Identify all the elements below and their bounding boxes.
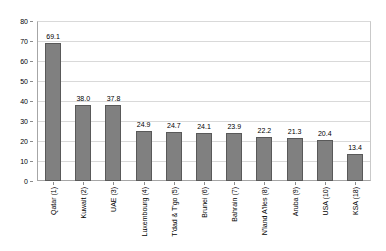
- bar-value-label: 22.2: [258, 127, 272, 134]
- bar-value-label: 20.4: [318, 130, 332, 137]
- x-tick-mark: [295, 182, 296, 185]
- x-tick-mark: [264, 182, 265, 185]
- bar-value-label: 24.7: [167, 122, 181, 129]
- y-tick-label: 60: [20, 58, 28, 65]
- x-axis-slot: UAE (3): [98, 182, 128, 251]
- bar-slot[interactable]: 24.9: [129, 21, 159, 181]
- bar-slot[interactable]: 20.4: [310, 21, 340, 181]
- x-tick-label: Bahrain (7): [231, 187, 238, 222]
- y-tick-label: 70: [20, 38, 28, 45]
- x-tick-mark: [325, 182, 326, 185]
- bar[interactable]: [105, 105, 121, 181]
- x-axis-slot: KSA (18): [340, 182, 370, 251]
- bar-value-label: 24.9: [137, 121, 151, 128]
- x-tick-label: N'land A'lles (8): [261, 187, 268, 235]
- x-tick-label: USA (10): [321, 187, 328, 215]
- x-tick-mark: [234, 182, 235, 185]
- x-tick-label: T'dad & T'go (5): [170, 187, 177, 237]
- bar-slot[interactable]: 24.1: [189, 21, 219, 181]
- y-tick-mark: [30, 21, 33, 22]
- bar[interactable]: [226, 133, 242, 181]
- bars-layer: 69.138.037.824.924.724.123.922.221.320.4…: [38, 21, 370, 181]
- x-tick-mark: [355, 182, 356, 185]
- x-tick-label: KSA (18): [351, 187, 358, 215]
- y-tick-mark: [30, 141, 33, 142]
- y-tick-label: 20: [20, 138, 28, 145]
- bar-slot[interactable]: 23.9: [219, 21, 249, 181]
- x-tick-mark: [53, 182, 54, 185]
- x-axis-slot: Bahrain (7): [219, 182, 249, 251]
- y-axis: 01020304050607080: [0, 21, 33, 181]
- bar-slot[interactable]: 21.3: [280, 21, 310, 181]
- bar-value-label: 23.9: [227, 123, 241, 130]
- bar[interactable]: [75, 105, 91, 181]
- x-tick-mark: [83, 182, 84, 185]
- x-tick-mark: [174, 182, 175, 185]
- x-axis-slot: T'dad & T'go (5): [159, 182, 189, 251]
- x-tick-label: Kuwait (2): [80, 187, 87, 219]
- bar-value-label: 69.1: [46, 33, 60, 40]
- bar-value-label: 24.1: [197, 123, 211, 130]
- x-axis-slot: Kuwait (2): [68, 182, 98, 251]
- bar[interactable]: [256, 137, 272, 181]
- x-tick-label: Qatar (1): [50, 187, 57, 215]
- y-tick-mark: [30, 181, 33, 182]
- bar-value-label: 13.4: [348, 144, 362, 151]
- bar-slot[interactable]: 22.2: [249, 21, 279, 181]
- y-tick-mark: [30, 101, 33, 102]
- x-tick-label: UAE (3): [110, 187, 117, 212]
- bar-slot[interactable]: 37.8: [98, 21, 128, 181]
- y-tick-mark: [30, 161, 33, 162]
- y-tick-label: 30: [20, 118, 28, 125]
- bar-chart: 01020304050607080 69.138.037.824.924.724…: [0, 0, 386, 251]
- bar-slot[interactable]: 69.1: [38, 21, 68, 181]
- x-axis-slot: N'land A'lles (8): [249, 182, 279, 251]
- y-tick-label: 50: [20, 78, 28, 85]
- x-tick-label: Aruba (9): [291, 187, 298, 216]
- x-axis-slot: Aruba (9): [280, 182, 310, 251]
- bar-slot[interactable]: 24.7: [159, 21, 189, 181]
- y-tick-mark: [30, 121, 33, 122]
- y-tick-mark: [30, 41, 33, 42]
- bar-slot[interactable]: 13.4: [340, 21, 370, 181]
- y-tick-label: 40: [20, 98, 28, 105]
- x-tick-mark: [144, 182, 145, 185]
- y-tick-label: 80: [20, 18, 28, 25]
- x-tick-mark: [204, 182, 205, 185]
- bar[interactable]: [287, 138, 303, 181]
- x-tick-label: Brunei (6): [201, 187, 208, 218]
- bar-value-label: 21.3: [288, 128, 302, 135]
- x-axis-slot: Luxembourg (4): [129, 182, 159, 251]
- x-tick-mark: [113, 182, 114, 185]
- bar[interactable]: [136, 131, 152, 181]
- bar-value-label: 37.8: [107, 95, 121, 102]
- bar-value-label: 38.0: [76, 95, 90, 102]
- x-tick-label: Luxembourg (4): [140, 187, 147, 236]
- bar[interactable]: [45, 43, 61, 181]
- x-axis-slot: Brunei (6): [189, 182, 219, 251]
- y-tick-label: 0: [24, 178, 28, 185]
- bar[interactable]: [347, 154, 363, 181]
- bar[interactable]: [196, 133, 212, 181]
- bar-slot[interactable]: 38.0: [68, 21, 98, 181]
- y-tick-mark: [30, 81, 33, 82]
- x-axis-slot: Qatar (1): [38, 182, 68, 251]
- y-tick-label: 10: [20, 158, 28, 165]
- x-axis-slot: USA (10): [310, 182, 340, 251]
- bar[interactable]: [317, 140, 333, 181]
- y-tick-mark: [30, 61, 33, 62]
- bar[interactable]: [166, 132, 182, 181]
- x-axis: Qatar (1)Kuwait (2)UAE (3)Luxembourg (4)…: [38, 182, 370, 251]
